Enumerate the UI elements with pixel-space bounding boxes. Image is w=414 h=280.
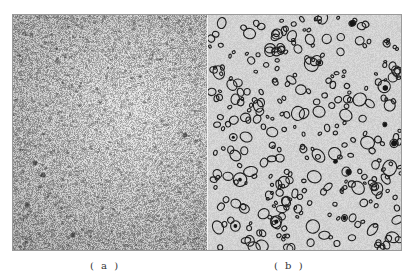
micrograph-panel-b bbox=[208, 15, 401, 250]
micrograph-image-b bbox=[208, 15, 401, 250]
caption-a: ( a ) bbox=[90, 260, 120, 271]
micrograph-panel-a bbox=[13, 15, 207, 250]
micrograph-image-a bbox=[13, 15, 207, 250]
caption-b: ( b ) bbox=[274, 260, 305, 271]
micrograph-figure bbox=[12, 14, 402, 251]
